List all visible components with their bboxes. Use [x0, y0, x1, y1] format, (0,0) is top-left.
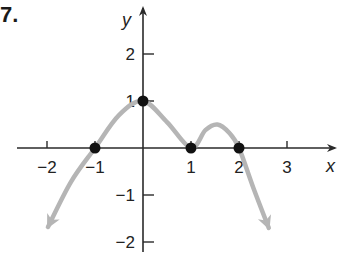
y-axis-label: y [120, 10, 132, 30]
marked-point [234, 143, 245, 154]
y-tick-label: 2 [126, 45, 135, 64]
x-tick-label: 1 [186, 158, 195, 177]
function-graph: −2−112321−1−2 x y [0, 0, 347, 260]
y-tick-label: −1 [116, 186, 135, 205]
y-tick-label: −2 [116, 233, 135, 252]
marked-point [186, 143, 197, 154]
x-axis-label: x [325, 156, 336, 176]
marked-point [138, 96, 149, 107]
x-tick-label: −2 [37, 158, 56, 177]
marked-point [90, 143, 101, 154]
x-tick-label: 3 [282, 158, 291, 177]
